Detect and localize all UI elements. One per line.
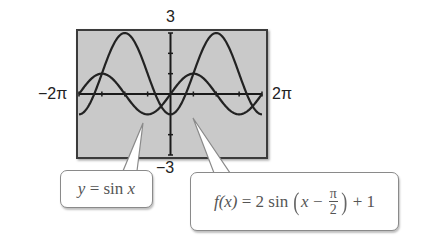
- x-max-label: 2π: [272, 85, 292, 103]
- f-plus: + 1: [349, 192, 376, 212]
- sin-callout: y = sin x: [60, 170, 153, 208]
- sin-var: x: [128, 179, 136, 199]
- f-minus: −: [309, 192, 327, 212]
- f-inner-x: x: [301, 192, 309, 212]
- left-paren: (: [294, 187, 300, 217]
- f-arg: (x): [219, 192, 238, 212]
- y-max-label: 3: [166, 8, 175, 26]
- f-callout: f (x) = 2 sin ( x − π 2 ) + 1: [190, 172, 399, 231]
- sin-lhs: y: [78, 179, 86, 199]
- f-eq: = 2 sin: [238, 192, 293, 212]
- y-min-label: −3: [156, 159, 174, 177]
- pi-over-2: π 2: [329, 186, 338, 217]
- frac-denominator: 2: [330, 202, 337, 217]
- frac-numerator: π: [329, 186, 338, 202]
- sin-eq: = sin: [85, 179, 127, 199]
- right-paren: ): [341, 187, 347, 217]
- x-min-label: −2π: [38, 85, 67, 103]
